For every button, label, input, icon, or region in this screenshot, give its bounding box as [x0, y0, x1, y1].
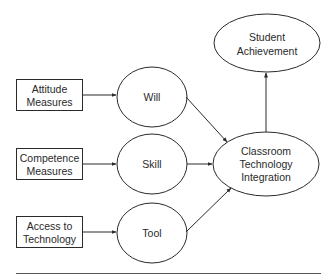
node-student-achievement: Student Achievement: [214, 14, 320, 72]
node-label: Achievement: [237, 45, 298, 57]
node-label: Measures: [26, 96, 72, 108]
node-attitude-measures: Attitude Measures: [17, 80, 83, 111]
node-label: Integration: [241, 171, 291, 183]
diagram-canvas: Student Achievement Attitude Measures Wi…: [0, 0, 334, 277]
node-label: Student: [249, 31, 285, 43]
node-label: Classroom: [241, 145, 291, 157]
arrow-will-to-integration: [186, 97, 227, 142]
node-label: Measures: [26, 165, 72, 177]
node-label: Attitude: [32, 83, 68, 95]
node-label: Will: [144, 91, 161, 103]
node-competence-measures: Competence Measures: [17, 149, 83, 180]
arrow-tool-to-integration: [186, 188, 231, 232]
node-label: Technology: [23, 233, 77, 245]
node-label: Tool: [142, 227, 161, 239]
node-will: Will: [117, 67, 187, 127]
node-skill: Skill: [117, 134, 187, 194]
node-access-to-technology: Access to Technology: [17, 217, 83, 248]
node-label: Skill: [142, 158, 161, 170]
node-label: Competence: [20, 152, 80, 164]
node-label: Access to: [27, 220, 73, 232]
node-classroom-technology-integration: Classroom Technology Integration: [213, 132, 319, 196]
node-label: Technology: [239, 158, 293, 170]
node-tool: Tool: [117, 203, 187, 263]
